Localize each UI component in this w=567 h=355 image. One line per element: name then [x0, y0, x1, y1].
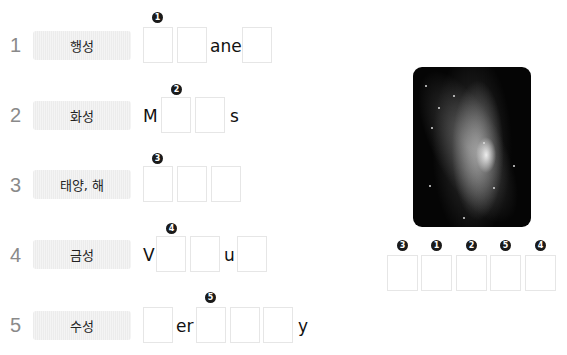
letter-box[interactable] [230, 307, 260, 343]
korean-label: 태양, 해 [33, 170, 131, 199]
star-icon [483, 142, 485, 144]
word-fragment: er [176, 318, 193, 335]
badge-2: 2 [171, 84, 182, 95]
word-fragment: V [143, 247, 155, 264]
letter-box[interactable] [161, 97, 191, 133]
korean-label: 금성 [33, 240, 131, 269]
row-number: 1 [10, 35, 21, 55]
star-icon [438, 107, 440, 109]
word-fragment: ane [210, 38, 242, 55]
korean-label: 행성 [33, 31, 131, 60]
korean-label: 수성 [33, 311, 131, 340]
letter-box[interactable] [242, 27, 272, 63]
star-icon [453, 95, 455, 97]
answer-box[interactable] [421, 255, 452, 291]
row-number: 5 [10, 315, 21, 335]
row-number: 3 [10, 175, 21, 195]
answer-badge: 3 [397, 240, 408, 251]
answer-box[interactable] [525, 255, 556, 291]
galaxy-image [413, 67, 531, 227]
star-icon [493, 187, 495, 189]
word-fragment: y [298, 318, 308, 335]
letter-box[interactable] [263, 307, 293, 343]
answer-box[interactable] [490, 255, 521, 291]
badge-3: 3 [152, 153, 163, 164]
answer-badge: 5 [500, 240, 511, 251]
answer-box[interactable] [387, 255, 418, 291]
answer-box[interactable] [456, 255, 487, 291]
badge-1: 1 [152, 12, 163, 23]
row-number: 4 [10, 245, 21, 265]
letter-box[interactable] [196, 307, 226, 343]
star-icon [513, 165, 515, 167]
korean-label: 화성 [33, 101, 131, 130]
answer-badge: 4 [535, 240, 546, 251]
star-icon [429, 185, 431, 187]
answer-badge: 1 [431, 240, 442, 251]
letter-box[interactable] [143, 27, 173, 63]
star-icon [463, 217, 465, 219]
star-icon [425, 85, 427, 87]
badge-5: 5 [205, 292, 216, 303]
letter-box[interactable] [190, 236, 220, 272]
word-fragment: s [230, 108, 239, 125]
letter-box[interactable] [156, 236, 186, 272]
word-fragment: M [143, 108, 158, 125]
letter-box[interactable] [177, 27, 207, 63]
row-number: 2 [10, 105, 21, 125]
letter-box[interactable] [211, 166, 241, 202]
star-icon [431, 127, 433, 129]
badge-4: 4 [166, 223, 177, 234]
word-fragment: u [224, 247, 235, 264]
letter-box[interactable] [177, 166, 207, 202]
letter-box[interactable] [195, 97, 225, 133]
galaxy-arm [413, 67, 531, 227]
letter-box[interactable] [237, 236, 267, 272]
letter-box[interactable] [143, 166, 173, 202]
letter-box[interactable] [143, 307, 173, 343]
answer-badge: 2 [466, 240, 477, 251]
